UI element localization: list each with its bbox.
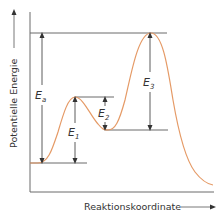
label-ea: Ea bbox=[35, 89, 46, 104]
label-e2: E2 bbox=[98, 107, 110, 122]
energy-diagram: Ea E1 E2 E3 Potentielle Energie Reaktion… bbox=[0, 0, 224, 216]
reaction-curve bbox=[30, 33, 213, 185]
label-e1: E1 bbox=[68, 126, 79, 141]
y-axis-label: Potentielle Energie bbox=[8, 59, 19, 148]
x-axis-label: Reaktionskoordinate bbox=[84, 201, 181, 212]
label-e3: E3 bbox=[143, 76, 154, 91]
